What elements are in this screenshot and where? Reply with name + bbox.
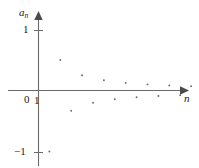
- data-point-group: [48, 59, 199, 152]
- data-point: [70, 110, 72, 112]
- data-point: [168, 84, 170, 86]
- y-axis-arrowhead: [34, 11, 42, 20]
- x-axis-title: n: [184, 93, 190, 104]
- data-point: [157, 95, 159, 97]
- data-point: [147, 83, 149, 85]
- origin-label: 0: [24, 94, 30, 105]
- data-point: [103, 79, 105, 81]
- data-point: [136, 96, 138, 98]
- sequence-scatter-figure: an n 1 −1 0 1: [0, 0, 199, 168]
- data-point: [190, 85, 192, 87]
- data-point: [48, 151, 50, 153]
- data-point: [81, 74, 83, 76]
- y-axis-title: an: [19, 7, 28, 19]
- data-point: [92, 102, 94, 104]
- data-point: [59, 59, 61, 61]
- y-tick-label-negative-one: −1: [14, 146, 26, 157]
- y-axis-title-subscript: n: [25, 11, 29, 20]
- data-point: [114, 98, 116, 100]
- data-point: [179, 94, 181, 96]
- plot-canvas: [0, 0, 199, 168]
- x-tick-label-one: 1: [34, 95, 40, 106]
- data-point: [125, 82, 127, 84]
- y-tick-label-one: 1: [23, 24, 29, 35]
